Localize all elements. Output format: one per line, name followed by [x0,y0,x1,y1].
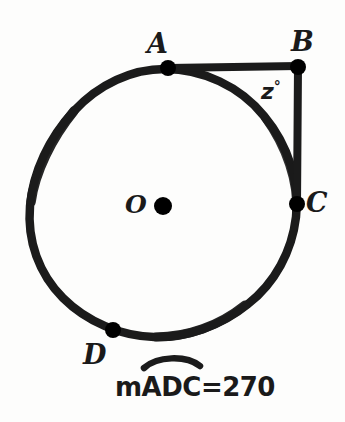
arc-symbol [144,358,200,368]
label-point-b: B [291,28,314,55]
label-point-c: C [306,189,328,216]
segment-bc [297,67,298,204]
degree-symbol: ° [274,78,281,94]
geometry-diagram-svg [0,0,345,422]
label-point-a: A [147,30,168,57]
label-circle-center: O [125,192,147,217]
point-b-dot [290,59,306,75]
point-c-dot [289,196,305,212]
segment-ab [168,66,298,68]
label-point-d: D [83,341,106,368]
label-angle-z: z° [261,79,281,103]
point-d-dot [105,322,121,338]
caption-arc-measure: mADC=270 [115,374,275,400]
center-dot [154,197,172,215]
geometry-figure-page: A B C D O z° mADC=270 [0,0,345,422]
point-a-dot [160,60,176,76]
angle-variable: z [261,79,274,104]
